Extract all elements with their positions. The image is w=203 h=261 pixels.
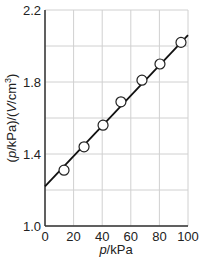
data-point	[116, 97, 126, 107]
grid	[45, 10, 188, 226]
y-tick-label: 1.4	[23, 147, 41, 162]
fit-line-group	[45, 35, 188, 186]
x-tick-label: 0	[41, 229, 48, 244]
data-point	[176, 37, 186, 47]
data-point	[59, 165, 69, 175]
x-axis-label: p/kPa	[98, 242, 133, 257]
tick-labels: 0204060801001.01.41.82.2	[23, 3, 199, 244]
y-axis-label: (p/kPa)/(V/cm3)	[3, 74, 19, 163]
data-point	[79, 142, 89, 152]
data-point	[155, 59, 165, 69]
data-point	[137, 75, 147, 85]
x-tick-label: 100	[177, 229, 199, 244]
y-tick-label: 1.0	[23, 219, 41, 234]
data-point	[98, 120, 108, 130]
x-tick-label: 80	[152, 229, 166, 244]
x-tick-label: 20	[66, 229, 80, 244]
chart: 0204060801001.01.41.82.2 p/kPa (p/kPa)/(…	[0, 0, 203, 261]
y-tick-label: 2.2	[23, 3, 41, 18]
y-tick-label: 1.8	[23, 75, 41, 90]
fit-line	[45, 35, 188, 186]
